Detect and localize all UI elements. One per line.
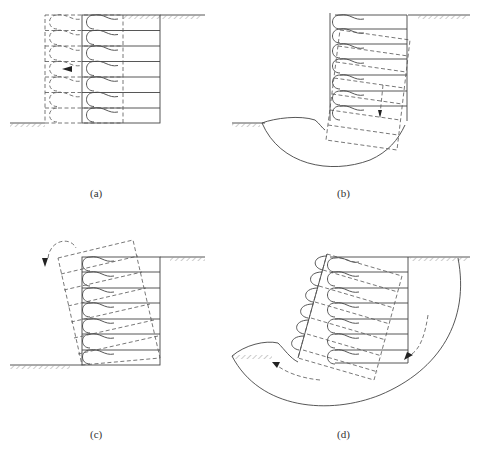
panel-label-b: (b) — [337, 187, 350, 199]
panel-d-deep-slip — [232, 254, 470, 406]
arrow-slip-left-icon — [272, 362, 280, 368]
panel-b-bearing — [232, 13, 470, 167]
arrow-slip-down-icon — [404, 352, 413, 360]
panel-label-d: (d) — [337, 428, 350, 440]
panel-label-c: (c) — [90, 428, 102, 440]
panel-label-a: (a) — [90, 187, 102, 199]
panel-a-sliding — [10, 15, 205, 127]
rotation-arrow-icon — [42, 258, 48, 267]
panel-c-overturning — [10, 240, 205, 369]
arrow-left-icon — [62, 66, 72, 72]
